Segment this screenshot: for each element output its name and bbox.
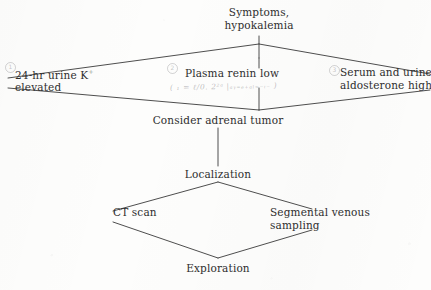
node-symptoms-line2: hypokalemia [224, 19, 293, 32]
node-consider-tumor: Consider adrenal tumor [153, 114, 284, 127]
node-venous-sampling-line2: sampling [270, 219, 370, 232]
node-ct-scan-label: CT scan [113, 206, 157, 218]
node-aldosterone-line1: Serum and urine [340, 66, 431, 78]
pencil-annotation: ( ₁ = ℓ/0. 2²ᵃ |ₐᵧ₌ₑ₊ₐₗ₌₋ᵢ₋ ) [170, 81, 277, 92]
node-urine-potassium-line1: 24-hr urine K [15, 69, 88, 81]
node-plasma-renin: Plasma renin low [185, 67, 279, 80]
node-localization: Localization [185, 168, 251, 181]
node-exploration: Exploration [186, 262, 250, 275]
node-symptoms: Symptoms, hypokalemia [224, 6, 293, 32]
marker-circle-3: 3 [329, 65, 340, 76]
marker-circle-2: 2 [167, 63, 178, 74]
node-ct-scan: CT scan [113, 206, 157, 219]
edge-aldosterone-to-consider [259, 90, 430, 110]
edge-venous-sampling-to-exploration [218, 230, 312, 258]
node-plasma-renin-line1: Plasma renin low [185, 67, 279, 79]
node-localization-label: Localization [185, 168, 251, 180]
node-urine-potassium-line2: elevated [15, 81, 94, 94]
connector-lines [0, 0, 431, 290]
node-urine-potassium-superscript: + [88, 68, 94, 76]
node-aldosterone: Serum and urine aldosterone high [340, 66, 431, 92]
node-venous-sampling: Segmental venous sampling [270, 206, 370, 232]
node-symptoms-line1: Symptoms, [229, 6, 289, 18]
node-exploration-label: Exploration [186, 262, 250, 274]
edge-ct-scan-to-exploration [113, 222, 218, 258]
node-aldosterone-line2: aldosterone high [340, 79, 431, 92]
edge-localization-to-venous-sampling [218, 182, 312, 209]
node-venous-sampling-line1: Segmental venous [270, 206, 370, 218]
node-urine-potassium: 24-hr urine K+ elevated [15, 66, 94, 94]
node-consider-tumor-label: Consider adrenal tumor [153, 114, 284, 126]
paper-grain-texture [0, 0, 431, 290]
flowchart-canvas: Symptoms, hypokalemia 1 24-hr urine K+ e… [0, 0, 431, 290]
